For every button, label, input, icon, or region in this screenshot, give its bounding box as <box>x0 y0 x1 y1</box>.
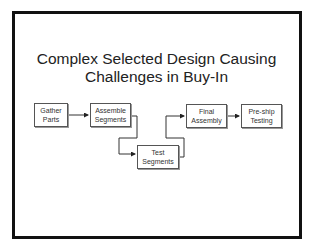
step-label: Parts <box>40 115 61 124</box>
step-label: Testing <box>248 116 274 125</box>
step-assemble-segments: AssembleSegments <box>90 103 131 127</box>
step-label: Assembly <box>191 116 221 125</box>
step-label: Pre-ship <box>248 107 274 116</box>
step-label: Segments <box>95 115 127 124</box>
step-gather-parts: GatherParts <box>34 103 68 127</box>
step-label: Segments <box>142 157 174 166</box>
step-final-assembly: FinalAssembly <box>186 104 227 128</box>
step-label: Final <box>191 107 221 116</box>
step-label: Test <box>142 148 174 157</box>
step-label: Gather <box>40 106 61 115</box>
step-pre-ship-testing: Pre-shipTesting <box>241 104 282 128</box>
step-label: Assemble <box>95 106 127 115</box>
step-test-segments: TestSegments <box>137 145 179 169</box>
